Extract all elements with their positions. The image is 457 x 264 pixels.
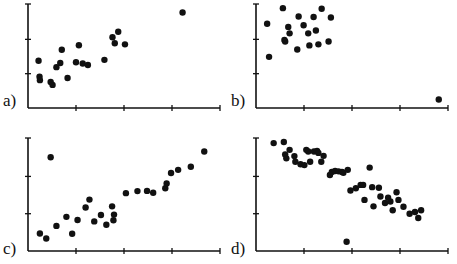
scatter-panel-d: d) — [0, 0, 457, 264]
data-point — [270, 140, 276, 146]
data-point — [415, 215, 421, 221]
data-point — [307, 159, 313, 165]
data-point — [369, 184, 375, 190]
data-point — [412, 209, 418, 215]
data-point — [360, 182, 366, 188]
data-point — [320, 153, 326, 159]
data-point — [400, 204, 406, 210]
data-point — [366, 164, 372, 170]
data-point — [343, 239, 349, 245]
data-point — [361, 197, 367, 203]
data-point — [318, 159, 324, 165]
data-points-d — [270, 139, 424, 245]
data-point — [387, 198, 393, 204]
panel-label-d: d) — [231, 240, 245, 257]
data-point — [370, 203, 376, 209]
data-point — [286, 147, 292, 153]
data-point — [281, 139, 287, 145]
data-point — [390, 207, 396, 213]
data-point — [345, 167, 351, 173]
data-point — [376, 185, 382, 191]
data-point — [418, 207, 424, 213]
data-point — [301, 162, 307, 168]
data-point — [393, 189, 399, 195]
data-point — [395, 197, 401, 203]
scatter-canvas-d — [0, 0, 457, 264]
data-point — [291, 153, 297, 159]
data-point — [305, 148, 311, 154]
scatter-plot-figure: a)b)c)d) — [0, 0, 457, 264]
data-point — [377, 193, 383, 199]
data-point — [283, 155, 289, 161]
